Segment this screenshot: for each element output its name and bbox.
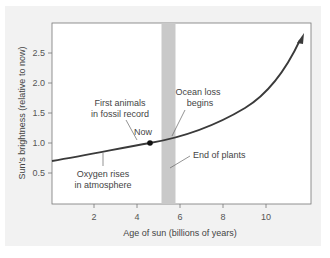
y-axis-label: Sun's brightness (relative to now) [17, 47, 27, 180]
x-tick-label: 8 [220, 212, 225, 222]
y-tick-label: 2.5 [32, 48, 45, 58]
y-tick-label: 1.0 [32, 138, 45, 148]
first-animals-label-1: First animals [94, 98, 146, 108]
now-marker [147, 140, 153, 146]
x-tick-label: 4 [134, 212, 139, 222]
y-ticks [48, 53, 52, 173]
shaded-band [162, 24, 176, 204]
y-tick-label: 1.5 [32, 108, 45, 118]
now-label: Now [134, 127, 153, 137]
oxygen-label-2: in atmosphere [74, 180, 131, 190]
oxygen-label-1: Oxygen rises [77, 169, 130, 179]
x-tick-label: 2 [91, 212, 96, 222]
y-tick-label: 2.0 [32, 78, 45, 88]
first-animals-label-2: in fossil record [91, 109, 149, 119]
ocean-loss-label-1: Ocean loss [175, 87, 221, 97]
x-axis-label: Age of sun (billions of years) [123, 228, 237, 238]
y-tick-label: 0.5 [32, 168, 45, 178]
x-ticks [94, 204, 266, 208]
end-of-plants-label: End of plants [193, 150, 246, 160]
ocean-loss-label-2: begins [187, 98, 214, 108]
x-tick-label: 10 [261, 212, 271, 222]
x-tick-label: 6 [177, 212, 182, 222]
brightness-chart: 2.5 2.0 1.5 1.0 0.5 2 4 6 8 10 Age of su… [0, 0, 330, 258]
